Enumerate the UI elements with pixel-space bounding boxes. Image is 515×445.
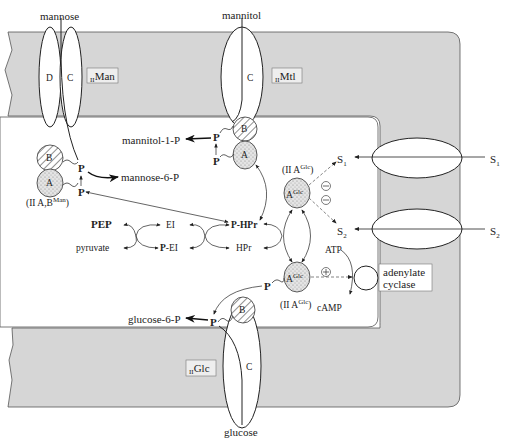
s2-out-label: S2 [490,225,500,240]
camp-label: cAMP [317,303,342,313]
hpr-label: HPr [236,243,252,253]
glc-c-label: C [246,362,252,372]
glc-b-p: P [210,316,217,328]
pts-diagram: D C mannose IIMan B A P P mannose-6-P (I… [0,0,515,445]
glucose-label: glucose [224,426,258,438]
s1-transporter [372,138,462,178]
mannose-label: mannose [40,10,79,22]
mtl-p-upper: P [213,131,220,143]
pyruvate-label: pyruvate [76,243,109,253]
man-p-lower: P [78,186,85,198]
iiman-label: IIMan [90,70,115,84]
pep-label: PEP [91,218,112,230]
man-a-label: A [46,178,53,188]
p-hpr-label: P-HPr [231,220,258,230]
mtl-c-label: C [247,73,253,83]
p-ei-label: P-EI [160,243,178,253]
man-p-upper: P [78,162,85,174]
s1-out-label: S1 [490,153,500,168]
man-d-label: D [46,73,53,83]
cyclase-label: cyclase [383,278,415,290]
atp-label: ATP [325,245,342,255]
mannitol-1-p-arrow [186,138,211,139]
mannitol-label: mannitol [222,9,261,21]
mtl-a-label: A [241,150,248,160]
mannose-6-p-label: mannose-6-P [121,171,179,183]
mannitol-1-p-label: mannitol-1-P [122,134,180,146]
glc-iia-p: P [264,280,271,292]
man-c-label: C [67,73,73,83]
adenylate-label: adenylate [383,266,425,278]
adenylate-cyclase-enzyme [354,266,378,290]
mtl-p-lower: P [213,155,220,167]
mtl-b-label: B [241,124,247,134]
ei-label: EI [166,220,175,230]
man-b-label: B [46,153,52,163]
glucose-6-p-label: glucose-6-P [128,313,181,325]
glc-b-label: B [239,305,245,315]
